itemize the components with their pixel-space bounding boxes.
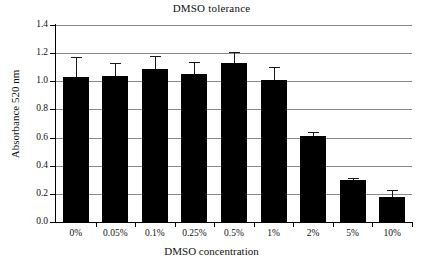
y-axis-tick — [50, 138, 56, 139]
y-axis-tick — [50, 222, 56, 223]
error-bar-stem — [392, 190, 393, 197]
x-axis-tick — [412, 222, 413, 227]
x-axis-tick — [333, 222, 334, 227]
bar — [142, 69, 168, 222]
error-bar-cap — [387, 190, 398, 191]
x-axis-tick — [372, 222, 373, 227]
error-bar-stem — [274, 67, 275, 80]
y-axis-tick-label: 1.4 — [2, 19, 48, 29]
bar — [102, 76, 128, 222]
x-axis-tick — [214, 222, 215, 227]
x-axis-tick — [135, 222, 136, 227]
y-axis-tick — [50, 194, 56, 195]
x-axis-tick — [96, 222, 97, 227]
error-bar-stem — [115, 63, 116, 76]
error-bar-cap — [150, 56, 161, 57]
y-axis-tick-labels: 0.00.20.40.60.81.01.21.4 — [0, 0, 48, 266]
plot-area — [56, 25, 412, 222]
error-bar-stem — [76, 57, 77, 77]
x-axis-tick — [293, 222, 294, 227]
error-bar-cap — [229, 52, 240, 53]
error-bar-cap — [189, 62, 200, 63]
y-axis-tick-label: 0.2 — [2, 188, 48, 198]
error-bar-cap — [308, 132, 319, 133]
x-axis-title: DMSO concentration — [0, 245, 423, 257]
y-axis-tick — [50, 81, 56, 82]
y-axis-tick — [50, 53, 56, 54]
chart-title: DMSO tolerance — [0, 2, 423, 14]
x-axis-tick-label: 10% — [367, 228, 417, 238]
error-bar-stem — [155, 56, 156, 69]
error-bar-cap — [110, 63, 121, 64]
bar — [379, 197, 405, 222]
error-bar-stem — [194, 62, 195, 75]
error-bar-cap — [348, 178, 359, 179]
top-gridline — [56, 25, 412, 26]
x-axis-tick — [175, 222, 176, 227]
bar — [221, 63, 247, 222]
bar — [261, 80, 287, 222]
chart-figure: DMSO tolerance 0.00.20.40.60.81.01.21.4 … — [0, 0, 423, 266]
bar — [63, 77, 89, 222]
bar — [300, 136, 326, 222]
error-bar-cap — [71, 57, 82, 58]
y-axis-tick-label: 0.0 — [2, 216, 48, 226]
y-axis-tick — [50, 166, 56, 167]
bar — [340, 180, 366, 222]
x-axis-line — [55, 222, 413, 223]
y-axis-tick — [50, 25, 56, 26]
x-axis-tick — [254, 222, 255, 227]
error-bar-stem — [234, 52, 235, 63]
y-axis-tick — [50, 109, 56, 110]
y-axis-title: Absorbance 520 nm — [9, 44, 21, 184]
bar — [181, 74, 207, 222]
error-bar-cap — [269, 67, 280, 68]
